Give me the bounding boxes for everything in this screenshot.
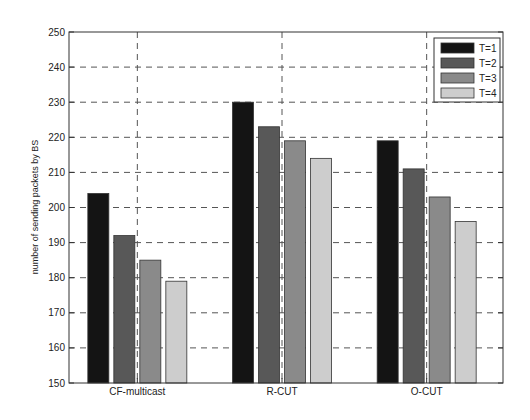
legend: T=1T=2T=3T=4 — [434, 38, 500, 102]
legend-swatch — [441, 43, 474, 53]
y-tick-label: 190 — [48, 237, 65, 248]
legend-swatch — [441, 73, 474, 83]
legend-label: T=1 — [479, 43, 497, 54]
bar — [88, 193, 109, 383]
y-tick-label: 240 — [48, 62, 65, 73]
bar — [455, 222, 476, 383]
bar-chart: 150160170180190200210220230240250 CF-mul… — [0, 0, 530, 420]
bar — [429, 197, 450, 383]
y-tick-label: 160 — [48, 342, 65, 353]
bar — [285, 141, 306, 383]
x-tick-label: O-CUT — [411, 386, 443, 397]
x-tick-label: CF-multicast — [109, 386, 165, 397]
y-tick-label: 150 — [48, 378, 65, 389]
y-tick-label: 220 — [48, 132, 65, 143]
bar — [311, 158, 332, 383]
bar — [403, 169, 424, 383]
x-tick-label: R-CUT — [266, 386, 297, 397]
y-axis-title: number of sending packets by BS — [30, 140, 40, 275]
y-tick-label: 230 — [48, 97, 65, 108]
y-tick-label: 200 — [48, 202, 65, 213]
legend-swatch — [441, 58, 474, 68]
legend-label: T=2 — [479, 58, 497, 69]
bar — [140, 260, 161, 383]
legend-swatch — [441, 88, 474, 98]
y-tick-label: 170 — [48, 307, 65, 318]
bar — [114, 236, 135, 383]
y-tick-label: 210 — [48, 167, 65, 178]
bar — [233, 102, 254, 383]
y-tick-label: 180 — [48, 272, 65, 283]
legend-label: T=3 — [479, 73, 497, 84]
legend-label: T=4 — [479, 88, 497, 99]
bar — [166, 281, 187, 383]
y-tick-label: 250 — [48, 27, 65, 38]
bar — [377, 141, 398, 383]
bar — [259, 127, 280, 383]
